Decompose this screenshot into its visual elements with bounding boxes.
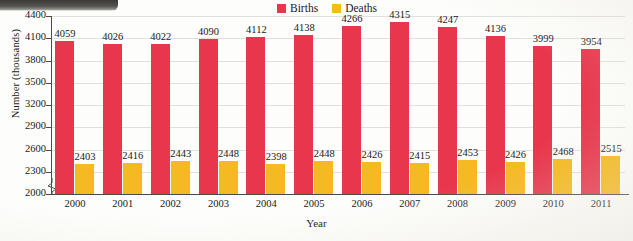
bar-value-label-deaths: 2403	[68, 151, 102, 162]
bar-group: 39542515	[577, 16, 625, 194]
y-axis-tick-label: 4100	[0, 31, 46, 42]
bar-births[interactable]	[55, 41, 74, 194]
bar-births[interactable]	[103, 44, 122, 194]
bar-births[interactable]	[246, 37, 265, 194]
bar-deaths[interactable]	[123, 163, 142, 194]
x-axis-tick-label: 2010	[529, 198, 577, 209]
y-axis-tick-mark	[46, 194, 51, 195]
x-axis-tick-label: 2006	[338, 198, 386, 209]
x-axis-tick-label: 2004	[242, 198, 290, 209]
bar-births[interactable]	[390, 22, 409, 194]
bar-deaths[interactable]	[75, 164, 94, 194]
y-axis-tick-label: 3800	[0, 54, 46, 65]
bar-deaths[interactable]	[362, 162, 381, 194]
y-axis-tick-label: 3500	[0, 76, 46, 87]
x-axis-tick-label: 2001	[99, 198, 147, 209]
y-axis-tick-label: 4400	[0, 9, 46, 20]
bar-births[interactable]	[533, 46, 552, 194]
bar-value-label-deaths: 2426	[355, 149, 389, 160]
bar-chart: Births Deaths Number (thousands) 2000230…	[0, 0, 633, 241]
bar-group: 40262416	[99, 16, 147, 194]
bar-deaths[interactable]	[458, 160, 477, 194]
y-axis-tick-label: 2300	[0, 165, 46, 176]
bar-deaths[interactable]	[410, 163, 429, 194]
y-axis-tick-label: 2000	[0, 187, 46, 198]
x-axis-tick-label: 2008	[434, 198, 482, 209]
legend-swatch-deaths-icon	[332, 4, 341, 13]
y-axis-tick-label: 2900	[0, 120, 46, 131]
x-axis-tick-label: 2009	[481, 198, 529, 209]
bar-value-label-births: 4022	[144, 31, 178, 42]
bar-deaths[interactable]	[506, 162, 525, 194]
x-axis-tick-label: 2011	[577, 198, 625, 209]
bar-deaths[interactable]	[171, 161, 190, 194]
bar-group: 41122398	[242, 16, 290, 194]
bar-group: 42662426	[338, 16, 386, 194]
bar-groups: 4059240340262416402224434090244841122398…	[51, 16, 625, 194]
y-axis-tick-label: 2600	[0, 143, 46, 154]
bar-value-label-deaths: 2415	[403, 150, 437, 161]
bar-value-label-deaths: 2398	[259, 151, 293, 162]
bar-group: 40222443	[147, 16, 195, 194]
x-axis-title: Year	[0, 217, 633, 229]
x-axis-tick-label: 2007	[386, 198, 434, 209]
x-axis-tick-label: 2002	[147, 198, 195, 209]
legend-item-births: Births	[277, 2, 318, 14]
bar-group: 40592403	[51, 16, 99, 194]
bar-value-label-deaths: 2416	[116, 150, 150, 161]
bar-births[interactable]	[438, 27, 457, 194]
x-axis-tick-label: 2000	[51, 198, 99, 209]
bar-births[interactable]	[342, 26, 361, 194]
bar-value-label-births: 4059	[48, 28, 82, 39]
legend-label-births: Births	[290, 2, 318, 14]
bar-deaths[interactable]	[314, 161, 333, 194]
x-axis-tick-label: 2005	[290, 198, 338, 209]
bar-value-label-deaths: 2468	[546, 146, 580, 157]
bar-deaths[interactable]	[266, 164, 285, 194]
bar-value-label-births: 4112	[239, 24, 273, 35]
bar-deaths[interactable]	[219, 161, 238, 194]
bar-births[interactable]	[199, 39, 218, 194]
bar-value-label-deaths: 2443	[164, 148, 198, 159]
bar-value-label-births: 4315	[383, 9, 417, 20]
bar-value-label-deaths: 2426	[499, 149, 533, 160]
bar-births[interactable]	[294, 35, 313, 194]
y-axis-tick-label: 3200	[0, 98, 46, 109]
bar-births[interactable]	[581, 49, 600, 194]
bar-group: 40902448	[195, 16, 243, 194]
x-axis-tick-label: 2003	[194, 198, 242, 209]
bar-value-label-births: 3954	[574, 36, 608, 47]
bar-value-label-deaths: 2448	[212, 148, 246, 159]
bar-group: 41382448	[290, 16, 338, 194]
bar-value-label-births: 4136	[479, 23, 513, 34]
bar-value-label-births: 4266	[335, 13, 369, 24]
bar-group: 42472453	[434, 16, 482, 194]
bar-value-label-deaths: 2453	[451, 147, 485, 158]
bar-group: 39992468	[529, 16, 577, 194]
bar-births[interactable]	[486, 36, 505, 194]
bar-value-label-births: 4138	[287, 22, 321, 33]
legend-swatch-births-icon	[277, 4, 286, 13]
bar-value-label-births: 4026	[96, 31, 130, 42]
bar-group: 43152415	[386, 16, 434, 194]
bar-group: 41362426	[482, 16, 530, 194]
bar-value-label-deaths: 2448	[307, 148, 341, 159]
bar-value-label-deaths: 2515	[594, 143, 628, 154]
bar-value-label-births: 4247	[431, 14, 465, 25]
bar-deaths[interactable]	[553, 159, 572, 194]
bar-value-label-births: 4090	[192, 26, 226, 37]
bar-births[interactable]	[151, 44, 170, 194]
bar-deaths[interactable]	[601, 156, 620, 194]
bar-value-label-births: 3999	[526, 33, 560, 44]
x-axis-line	[51, 194, 629, 195]
